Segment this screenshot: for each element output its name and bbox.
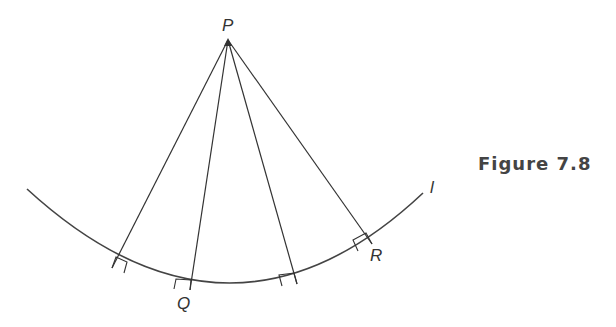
label-q: Q xyxy=(177,294,190,314)
label-l: l xyxy=(430,178,434,198)
label-p: P xyxy=(222,16,233,36)
line-pr xyxy=(228,40,372,244)
right-angle-mark-q xyxy=(174,279,191,290)
lines-from-p xyxy=(112,40,372,290)
line-p-foot3 xyxy=(228,40,297,284)
figure-caption: Figure 7.8 xyxy=(478,153,591,174)
right-angle-mark-1 xyxy=(112,257,127,273)
label-r: R xyxy=(370,246,382,266)
right-angle-marks xyxy=(112,233,372,290)
apex-arrow xyxy=(224,38,232,46)
curve-l xyxy=(27,189,423,283)
